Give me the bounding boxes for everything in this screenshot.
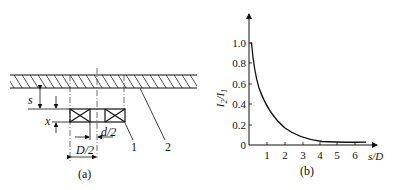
label-d-half: d/2 xyxy=(101,125,116,139)
ytick-0.4: 0.4 xyxy=(232,98,246,110)
metal-plate xyxy=(10,75,197,88)
xtick-2: 2 xyxy=(282,149,288,161)
xtick-5: 5 xyxy=(334,149,340,161)
callout-2: 2 xyxy=(165,140,171,154)
x-axis-label: s/D xyxy=(368,150,383,162)
dimension-x xyxy=(52,96,70,133)
label-D-half: D/2 xyxy=(75,143,94,157)
xtick-1: 1 xyxy=(264,149,270,161)
callout-leaders xyxy=(125,88,165,140)
ytick-0.6: 0.6 xyxy=(232,78,246,90)
xtick-4: 4 xyxy=(317,149,323,161)
decay-curve xyxy=(251,43,367,142)
figure-canvas: s x d/2 D/2 1 2 (a) xyxy=(0,0,393,190)
x-tick-labels: 1 2 3 4 5 6 xyxy=(264,149,358,161)
caption-b: (b) xyxy=(300,164,314,178)
callout-1: 1 xyxy=(131,140,137,154)
axes xyxy=(249,14,377,145)
coil xyxy=(70,109,125,140)
xtick-3: 3 xyxy=(300,149,306,161)
figure-b: 0 0.2 0.4 0.6 0.8 1.0 I2/I1 1 2 3 4 5 6 … xyxy=(214,14,383,178)
dimension-s xyxy=(28,89,70,109)
ytick-0.8: 0.8 xyxy=(232,57,246,69)
label-x: x xyxy=(44,114,51,128)
label-s: s xyxy=(28,93,33,107)
xtick-6: 6 xyxy=(352,149,358,161)
figure-a: s x d/2 D/2 1 2 (a) xyxy=(10,68,197,181)
ytick-0: 0 xyxy=(241,139,247,151)
caption-a: (a) xyxy=(78,167,91,181)
ytick-1.0: 1.0 xyxy=(232,37,246,49)
y-tick-labels: 0 0.2 0.4 0.6 0.8 1.0 xyxy=(232,37,246,151)
y-axis-label: I2/I1 xyxy=(214,89,229,108)
ytick-0.2: 0.2 xyxy=(232,119,246,131)
